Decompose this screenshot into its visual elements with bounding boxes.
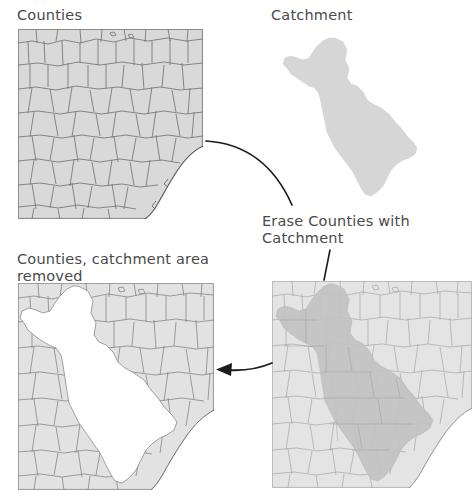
erase-operation-label: Erase Counties with Catchment bbox=[262, 213, 462, 247]
catchment-map-title: Catchment bbox=[271, 7, 353, 24]
overlay-map bbox=[272, 281, 472, 488]
catchment-map bbox=[277, 36, 420, 208]
diagram-canvas: Counties Catchment Erase Counties with C… bbox=[0, 0, 474, 499]
counties-map-title: Counties bbox=[17, 7, 82, 24]
counties-map bbox=[18, 29, 203, 219]
arrow-overlay-to-result-connector bbox=[216, 363, 272, 376]
result-map bbox=[18, 283, 214, 490]
result-map-title: Counties, catchment area removed bbox=[17, 251, 227, 285]
line-erase-to-overlay-connector bbox=[324, 250, 330, 280]
